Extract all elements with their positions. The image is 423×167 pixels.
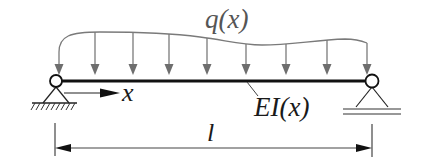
- beam-diagram: q(x) x EI(x) l: [0, 0, 423, 167]
- arrow-head-icon: [55, 64, 64, 75]
- arrow-head-icon: [129, 64, 138, 75]
- length-label: l: [207, 120, 214, 146]
- stiffness-label: EI(x): [254, 94, 309, 121]
- arrow-head-icon: [282, 64, 291, 75]
- arrow-head-icon: [55, 144, 71, 152]
- arrow-head-icon: [356, 144, 372, 152]
- arrow-head-icon: [363, 64, 372, 75]
- arrow-head-icon: [91, 64, 100, 75]
- hinge-icon: [50, 75, 62, 87]
- arrow-head-icon: [203, 64, 212, 75]
- arrow-head-icon: [242, 64, 251, 75]
- x-axis-arrow: [64, 89, 120, 98]
- arrow-head-icon: [100, 89, 120, 98]
- load-curve: [59, 32, 367, 52]
- arrow-head-icon: [323, 64, 332, 75]
- arrow-head-icon: [165, 64, 174, 75]
- axis-label: x: [122, 80, 134, 106]
- ground-hatch-icon: [31, 103, 75, 110]
- hinge-icon: [366, 75, 379, 88]
- load-label: q(x): [205, 6, 248, 33]
